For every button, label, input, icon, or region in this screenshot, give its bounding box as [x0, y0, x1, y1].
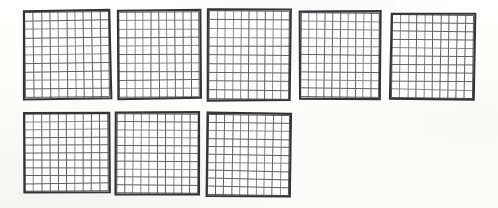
grid-svg — [207, 9, 292, 102]
grid-svg — [115, 112, 201, 196]
grid-line-horizontal — [117, 153, 198, 154]
grid-line-horizontal — [25, 137, 108, 138]
grid-line-horizontal — [117, 169, 198, 170]
worksheet-page — [0, 0, 498, 208]
hundred-square-grid-6[interactable] — [23, 112, 110, 194]
hundred-square-grid-5[interactable] — [389, 12, 475, 100]
grid-svg — [299, 11, 382, 100]
hundred-square-grid-3[interactable] — [207, 9, 292, 102]
grid-line-horizontal — [25, 167, 108, 168]
grid-line-vertical — [181, 114, 182, 193]
hundred-square-grid-1[interactable] — [23, 10, 112, 100]
grid-line-horizontal — [119, 63, 199, 64]
grid-line-horizontal — [209, 46, 289, 47]
grid-line-horizontal — [117, 145, 198, 146]
grid-svg — [23, 112, 110, 194]
grid-line-horizontal — [25, 159, 108, 160]
grid-line-horizontal — [209, 81, 289, 82]
hundred-square-grid-4[interactable] — [299, 11, 382, 100]
grid-line-horizontal — [119, 20, 199, 21]
grid-line-horizontal — [117, 177, 198, 178]
hundred-square-grid-8[interactable] — [205, 112, 291, 197]
hundred-square-grid-2[interactable] — [117, 10, 202, 100]
grid-line-horizontal — [209, 63, 289, 64]
grid-svg — [389, 12, 475, 100]
grid-line-horizontal — [119, 54, 200, 55]
hundred-square-grid-7[interactable] — [115, 112, 201, 196]
grid-svg — [23, 10, 112, 100]
grid-svg — [205, 112, 291, 197]
grid-line-horizontal — [119, 29, 199, 30]
grid-line-horizontal — [119, 71, 199, 72]
grid-line-horizontal — [117, 161, 198, 162]
grid-line-horizontal — [25, 153, 108, 154]
grid-svg — [117, 10, 202, 100]
grid-line-horizontal — [209, 19, 289, 20]
grid-line-horizontal — [25, 145, 108, 146]
grid-line-horizontal — [209, 72, 289, 73]
